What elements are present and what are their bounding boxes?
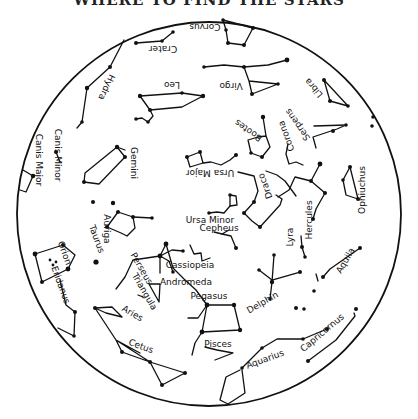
- constellation-label-andromeda: Andromeda: [160, 277, 212, 287]
- constellation-label-canis-minor: Canis Minor: [53, 129, 63, 182]
- constellation-label-corvus: Corvus: [189, 22, 221, 32]
- constellation-label-cassiopeia: Cassiopeia: [166, 260, 214, 270]
- constellation-label-gemini: Gemini: [129, 147, 139, 179]
- constellation-label-aquila: Aquila: [334, 246, 357, 275]
- constellation-label-ursa-major: Ursa Major: [186, 168, 235, 178]
- constellation-label-capricornus: Capricornus: [298, 311, 346, 353]
- constellation-label-hercules: Hercules: [304, 200, 314, 239]
- constellation-labels: CorvusCraterHydraLeoVirgoLibraSerpensCor…: [34, 22, 367, 371]
- constellation-label-virgo: Virgo: [219, 81, 243, 91]
- constellation-label-cepheus: Cepheus: [199, 223, 238, 233]
- constellation-label-auriga: Auriga: [102, 214, 112, 243]
- star-chart: CorvusCraterHydraLeoVirgoLibraSerpensCor…: [0, 0, 418, 419]
- constellation-label-ophiuchus: Ophiuchus: [357, 166, 367, 214]
- constellation-label-delphin: Delphin: [245, 289, 280, 315]
- constellation-label-aries: Aries: [120, 303, 145, 323]
- constellation-label-crater: Crater: [149, 44, 178, 54]
- constellation-label-lyra: Lyra: [285, 228, 295, 247]
- constellation-label-canis-major: Canis Major: [34, 134, 44, 187]
- constellation-label-pisces: Pisces: [204, 339, 232, 349]
- constellation-label-draco: Draco: [256, 171, 275, 200]
- constellation-label-cetus: Cetus: [127, 337, 155, 355]
- constellation-label-leo: Leo: [164, 80, 180, 90]
- constellation-label-pegasus: Pegasus: [191, 291, 228, 301]
- constellation-label-orion: Orion: [56, 240, 74, 266]
- constellation-label-libra: Libra: [303, 76, 325, 100]
- constellation-label-aquarius: Aquarius: [245, 348, 286, 371]
